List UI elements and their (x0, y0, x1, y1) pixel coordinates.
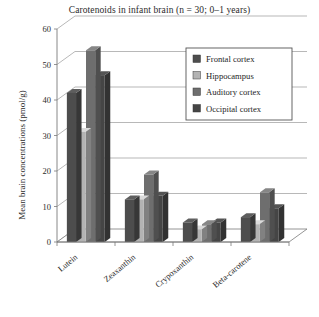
category-label: Crypoxanthin (153, 251, 196, 289)
chart-svg: 0102030405060 LuteinZeaxanthinCrypoxanth… (0, 0, 319, 317)
category-labels: LuteinZeaxanthinCrypoxanthinBeta-caroten… (56, 251, 254, 289)
svg-text:50: 50 (43, 60, 52, 70)
svg-text:0: 0 (47, 237, 51, 247)
legend-label: Hippocampus (206, 71, 254, 81)
svg-text:20: 20 (43, 166, 52, 176)
legend-label: Occipital cortex (206, 104, 262, 114)
legend-swatch (193, 72, 201, 80)
category-label: Lutein (56, 251, 80, 273)
category-label: Beta-carotene (211, 252, 254, 290)
category-label: Zeaxanthin (102, 251, 138, 284)
svg-text:30: 30 (43, 131, 52, 141)
legend-swatch (193, 105, 201, 113)
chart-container: Carotenoids in infant brain (n = 30; 0–1… (0, 0, 319, 317)
legend-label: Frontal cortex (206, 54, 255, 64)
legend: Frontal cortexHippocampusAuditory cortex… (186, 48, 292, 120)
svg-text:60: 60 (43, 24, 52, 34)
y-axis: 0102030405060 (43, 24, 58, 247)
legend-swatch (193, 55, 201, 63)
x-axis (57, 242, 289, 246)
legend-swatch (193, 88, 201, 96)
legend-label: Auditory cortex (206, 87, 261, 97)
svg-text:10: 10 (43, 202, 52, 212)
svg-text:40: 40 (43, 95, 52, 105)
